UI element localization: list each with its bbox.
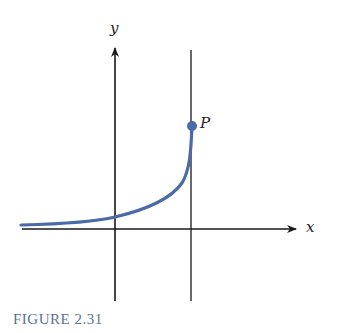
point-p	[187, 121, 197, 131]
graph-canvas	[0, 0, 339, 333]
curve	[21, 126, 192, 225]
x-axis-label: x	[306, 220, 314, 235]
figure-2-31: y x P FIGURE 2.31	[0, 0, 339, 333]
y-axis-label: y	[110, 21, 118, 36]
point-label: P	[200, 116, 210, 131]
figure-caption: FIGURE 2.31	[13, 311, 103, 328]
